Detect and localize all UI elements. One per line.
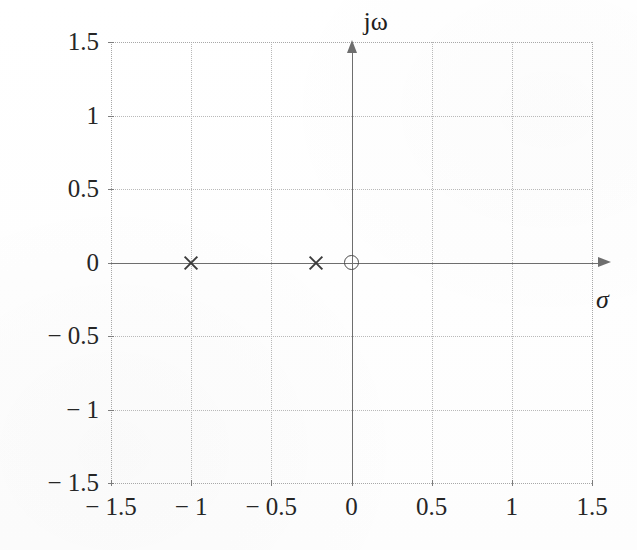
tick-mark-y	[108, 483, 114, 484]
y-tick-label: − 1	[66, 396, 99, 424]
x-tick-label: 0.5	[416, 493, 447, 521]
tick-mark-x	[271, 480, 272, 486]
horizontal-axis-label: σ	[596, 285, 609, 315]
tick-mark-y	[108, 336, 114, 337]
y-tick-label: 0	[87, 249, 100, 277]
tick-mark-x	[512, 480, 513, 486]
y-tick-label: 1.5	[68, 28, 99, 56]
pole-zero-figure: 1.510.50− 0.5− 1− 1.5 − 1.5− 1− 0.500.51…	[0, 0, 637, 550]
y-tick-label: − 0.5	[47, 322, 99, 350]
pole-marker	[307, 254, 325, 272]
tick-mark-y	[108, 189, 114, 190]
x-tick-label: 0	[345, 493, 358, 521]
plot-area	[111, 42, 592, 483]
x-tick-label: 1	[506, 493, 519, 521]
real-axis-arrowhead	[598, 257, 611, 267]
tick-mark-x	[592, 480, 593, 486]
x-tick-label: − 1.5	[85, 493, 137, 521]
tick-mark-y	[108, 410, 114, 411]
y-tick-label: 0.5	[68, 175, 99, 203]
tick-mark-y	[108, 42, 114, 43]
x-tick-label: − 1	[175, 493, 208, 521]
vertical-axis-label: jω	[364, 7, 388, 37]
imaginary-axis-arrowhead	[347, 40, 357, 53]
tick-mark-y	[108, 116, 114, 117]
x-tick-label: − 0.5	[246, 493, 298, 521]
y-tick-label: 1	[87, 102, 100, 130]
tick-mark-x	[191, 480, 192, 486]
x-tick-label: 1.5	[576, 493, 607, 521]
tick-mark-x	[432, 480, 433, 486]
pole-marker	[182, 254, 200, 272]
zero-marker	[344, 255, 359, 270]
